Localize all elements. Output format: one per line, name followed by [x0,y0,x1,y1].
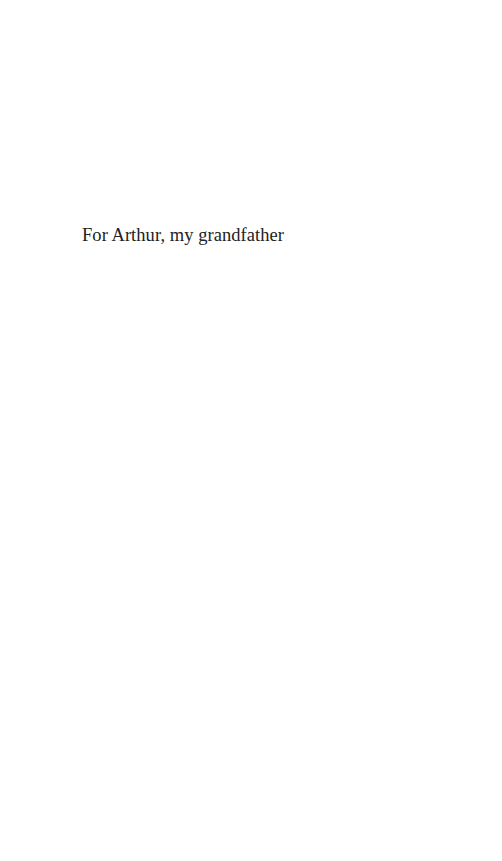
book-page: For Arthur, my grandfather [0,0,502,861]
dedication-text: For Arthur, my grandfather [82,224,284,246]
